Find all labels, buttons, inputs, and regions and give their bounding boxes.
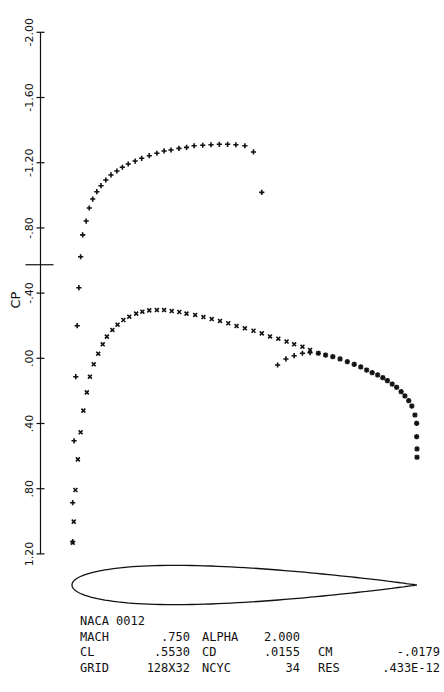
- param-label: RES: [318, 661, 340, 677]
- y-tick-label: 1.20: [23, 542, 36, 567]
- upper-surface-point: [120, 165, 125, 170]
- upper-surface-point: [251, 149, 256, 154]
- param-row: GRID 128X32 NCYC 34 RES .433E-12: [80, 661, 109, 677]
- upper-surface-point: [78, 254, 83, 259]
- param-value: .5530: [128, 645, 190, 661]
- lower-surface-point: [81, 409, 85, 413]
- lower-surface-point: [134, 312, 138, 316]
- param-value: 34: [240, 661, 300, 677]
- param-value: .0155: [240, 645, 300, 661]
- upper-surface-point: [98, 183, 103, 188]
- upper-surface-point: [292, 353, 297, 358]
- lower-surface-point: [268, 335, 272, 339]
- airfoil-outline: [72, 565, 417, 604]
- y-axis-label: CP: [8, 291, 23, 308]
- lower-surface-point: [147, 308, 151, 312]
- airfoil-name: NACA 0012: [80, 614, 145, 630]
- lower-surface-point: [140, 310, 144, 314]
- lower-surface-point: [155, 308, 159, 312]
- lower-surface-point: [121, 318, 125, 322]
- upper-surface-point: [70, 500, 75, 505]
- lower-surface-point: [88, 375, 92, 379]
- lower-surface-point: [243, 326, 247, 330]
- lower-surface-point: [79, 430, 83, 434]
- lower-surface-point: [170, 309, 174, 313]
- y-tick-label: .40: [23, 415, 36, 433]
- lower-surface-point: [72, 520, 76, 524]
- lower-surface-point: [162, 308, 166, 312]
- param-label: GRID: [80, 661, 109, 677]
- upper-surface-point: [242, 143, 247, 148]
- upper-surface-point: [259, 190, 264, 195]
- lower-surface-point: [101, 342, 105, 346]
- param-label: ALPHA: [202, 630, 238, 646]
- lower-surface-point: [105, 335, 109, 339]
- upper-surface-point: [103, 177, 108, 182]
- upper-surface-point: [84, 218, 89, 223]
- upper-surface-point: [184, 145, 189, 150]
- lower-surface-point: [177, 310, 181, 314]
- data-points: [70, 142, 420, 545]
- airfoil-name-row: NACA 0012: [80, 614, 109, 630]
- param-label: CL: [80, 645, 94, 661]
- lower-surface-point: [110, 328, 114, 332]
- y-axis: -2.00-1.60-1.20-.80-.40.00.40.801.20: [23, 18, 54, 566]
- lower-surface-point: [85, 390, 89, 394]
- param-value: 2.000: [240, 630, 300, 646]
- upper-surface-point: [114, 168, 119, 173]
- upper-surface-point: [94, 189, 99, 194]
- lower-surface-point: [226, 321, 230, 325]
- param-row: MACH .750 ALPHA 2.000: [80, 630, 109, 646]
- lower-surface-point: [276, 337, 280, 341]
- y-tick-label: .00: [23, 350, 36, 368]
- y-tick-label: -1.20: [23, 148, 36, 176]
- lower-surface-point: [96, 352, 100, 356]
- upper-surface-point: [168, 147, 173, 152]
- lower-surface-point: [235, 324, 239, 328]
- param-label: CD: [202, 645, 216, 661]
- lower-surface-point: [74, 488, 78, 492]
- upper-surface-point: [154, 151, 159, 156]
- y-tick-label: .80: [23, 480, 36, 498]
- lower-surface-point: [127, 315, 131, 319]
- lower-surface-point: [210, 317, 214, 321]
- lower-surface-point: [201, 315, 205, 319]
- lower-surface-point: [76, 457, 80, 461]
- param-value: .750: [128, 630, 190, 646]
- upper-surface-point: [200, 143, 205, 148]
- run-parameters: NACA 0012 MACH .750 ALPHA 2.000 CL .5530…: [80, 614, 109, 676]
- param-label: MACH: [80, 630, 109, 646]
- param-value: 128X32: [128, 661, 190, 677]
- upper-surface-point: [139, 156, 144, 161]
- y-tick-label: -.40: [23, 282, 36, 303]
- upper-surface-point: [108, 172, 113, 177]
- upper-surface-point: [283, 356, 288, 361]
- param-value: .433E-12: [348, 661, 440, 677]
- y-tick-label: -.80: [23, 217, 36, 238]
- upper-surface-point: [133, 158, 138, 163]
- lower-surface-point: [292, 342, 296, 346]
- lower-surface-point: [260, 331, 264, 335]
- upper-surface-point: [71, 438, 76, 443]
- upper-surface-point: [217, 142, 222, 147]
- upper-surface-point: [73, 374, 78, 379]
- param-value: -.0179: [348, 645, 440, 661]
- upper-surface-point: [192, 143, 197, 148]
- lower-surface-point: [193, 313, 197, 317]
- y-tick-label: -2.00: [23, 18, 36, 46]
- upper-surface-point: [147, 153, 152, 158]
- lower-surface-point: [285, 340, 289, 344]
- upper-surface-point: [80, 232, 85, 237]
- lower-surface-point: [92, 362, 96, 366]
- lower-surface-point: [218, 319, 222, 323]
- upper-surface-point: [176, 146, 181, 151]
- upper-surface-point: [162, 148, 167, 153]
- upper-surface-point: [126, 161, 131, 166]
- lower-surface-point: [252, 329, 256, 333]
- lower-surface-point: [301, 345, 305, 349]
- upper-surface-point: [90, 196, 95, 201]
- lower-surface-point: [116, 323, 120, 327]
- upper-surface-point: [208, 142, 213, 147]
- upper-surface-point: [76, 285, 81, 290]
- upper-surface-point: [233, 142, 238, 147]
